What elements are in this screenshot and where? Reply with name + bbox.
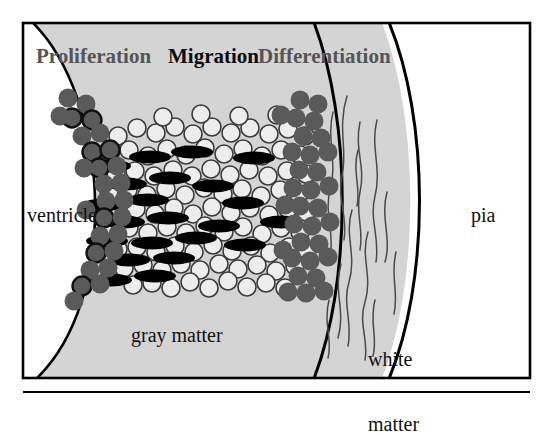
phase-header: Proliferation Migration Differentiation xyxy=(0,44,552,70)
phase-label-differentiation: Differentiation xyxy=(258,44,391,69)
phase-label-migration: Migration xyxy=(168,44,259,69)
phase-label-proliferation: Proliferation xyxy=(36,44,151,69)
region-label-ventricle: ventricle xyxy=(27,205,97,227)
region-label-white-matter: white matter xyxy=(368,306,419,435)
region-label-white-matter-line2: matter xyxy=(368,414,419,435)
region-label-pia: pia xyxy=(471,205,495,227)
region-label-gray-matter: gray matter xyxy=(131,325,223,347)
region-label-white-matter-line1: white xyxy=(368,349,419,371)
